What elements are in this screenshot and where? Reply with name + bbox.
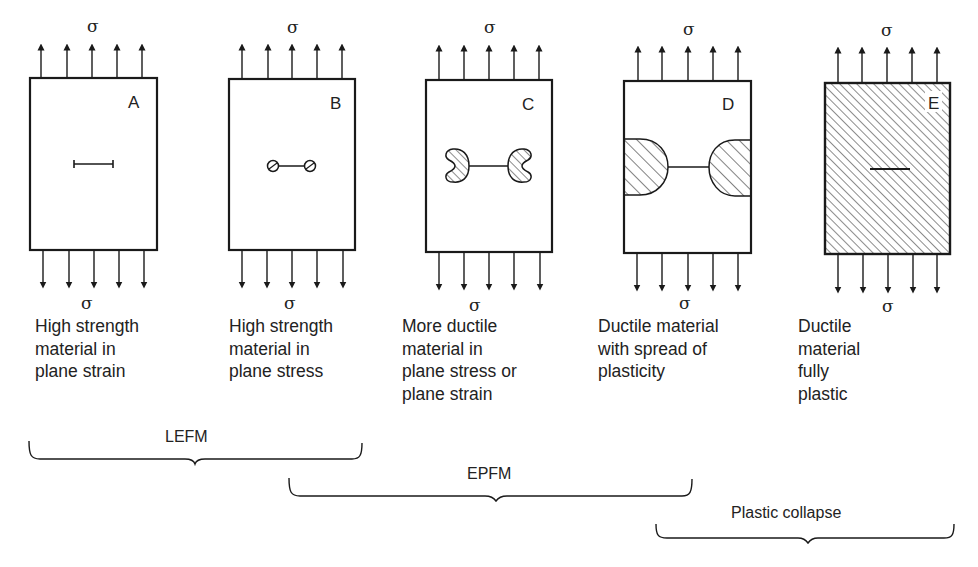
caption-a: High strength material in plane strain — [35, 315, 139, 383]
brace-label-plastic-collapse: Plastic collapse — [731, 504, 841, 522]
panel-e — [825, 50, 950, 290]
caption-line: plane stress — [229, 360, 333, 383]
caption-d: Ductile material with spread of plastici… — [598, 315, 719, 383]
panel-label-e: E — [928, 94, 939, 114]
caption-line: plane strain — [35, 360, 139, 383]
tension-arrows-bottom — [43, 250, 144, 285]
tension-arrows-top — [838, 50, 937, 83]
caption-line: material in — [35, 338, 139, 361]
caption-line: High strength — [35, 315, 139, 338]
tension-arrows-bottom — [242, 250, 343, 285]
crack-icon — [74, 160, 113, 168]
panel-label-b: B — [330, 94, 341, 114]
panel-a — [30, 47, 157, 285]
caption-line: material in — [402, 338, 517, 361]
caption-line: plane stress or — [402, 360, 517, 383]
stress-symbol-bottom-d: σ — [679, 293, 691, 313]
tension-arrows-bottom — [439, 252, 540, 287]
tension-arrows-top — [638, 49, 738, 81]
caption-line: Ductile — [798, 315, 860, 338]
stress-symbol-top-b: σ — [287, 17, 299, 37]
caption-line: High strength — [229, 315, 333, 338]
caption-b: High strength material in plane stress — [229, 315, 333, 383]
tension-arrows-top — [242, 47, 342, 79]
crack-with-plastic-zones-icon — [268, 161, 316, 172]
tension-arrows-top — [439, 48, 539, 80]
caption-c: More ductile material in plane stress or… — [402, 315, 517, 405]
caption-line: material — [798, 338, 860, 361]
brace-plastic-collapse — [656, 524, 954, 543]
stress-symbol-bottom-b: σ — [284, 293, 296, 313]
caption-line: Ductile material — [598, 315, 719, 338]
caption-line: plasticity — [598, 360, 719, 383]
caption-line: with spread of — [598, 338, 719, 361]
brace-label-epfm: EPFM — [467, 465, 511, 483]
panel-b — [229, 47, 355, 285]
stress-symbol-top-a: σ — [87, 16, 99, 36]
tension-arrows-bottom — [637, 253, 738, 288]
caption-line: fully — [798, 360, 860, 383]
panel-label-a: A — [128, 93, 139, 113]
panel-label-c: C — [522, 95, 534, 115]
caption-e: Ductile material fully plastic — [798, 315, 860, 405]
tension-arrows-bottom — [838, 254, 937, 290]
panel-d — [624, 49, 751, 288]
stress-symbol-top-d: σ — [683, 19, 695, 39]
caption-line: plastic — [798, 383, 860, 406]
crack-with-butterfly-plastic-zones-icon — [446, 149, 531, 182]
stress-symbol-top-c: σ — [484, 17, 496, 37]
caption-line: material in — [229, 338, 333, 361]
stress-symbol-bottom-e: σ — [882, 296, 894, 316]
stress-symbol-bottom-a: σ — [81, 293, 93, 313]
panel-label-d: D — [722, 95, 734, 115]
stress-symbol-bottom-c: σ — [469, 295, 481, 315]
panel-c — [426, 48, 552, 287]
caption-line: More ductile — [402, 315, 517, 338]
brace-label-lefm: LEFM — [165, 428, 208, 446]
stress-symbol-top-e: σ — [881, 20, 893, 40]
tension-arrows-top — [41, 47, 142, 78]
caption-line: plane strain — [402, 383, 517, 406]
